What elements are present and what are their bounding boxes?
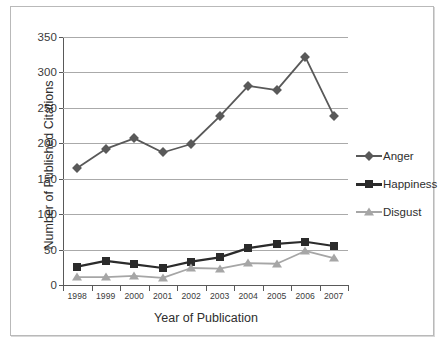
- legend-swatch-happiness: [356, 178, 382, 190]
- data-point-disgust-1999: [101, 273, 111, 281]
- x-tick-mark-10: [348, 286, 349, 291]
- data-point-happiness-2004: [244, 244, 252, 252]
- data-point-disgust-1998: [72, 273, 82, 281]
- x-axis-tick-labels: 1998199920002001200220032004200520062007: [63, 291, 349, 305]
- legend-label-happiness: Happiness: [382, 178, 437, 190]
- x-tick-label-2000: 2000: [124, 291, 144, 301]
- x-tick-label-2003: 2003: [210, 291, 230, 301]
- data-point-happiness-2007: [330, 242, 338, 250]
- data-point-happiness-2006: [301, 238, 309, 246]
- legend-swatch-anger: [356, 150, 382, 162]
- data-point-disgust-2001: [158, 274, 168, 282]
- y-axis-title: Number of Published Citations: [42, 60, 56, 270]
- x-tick-mark-4: [177, 286, 178, 291]
- data-point-happiness-1999: [102, 257, 110, 265]
- data-point-disgust-2000: [129, 271, 139, 279]
- x-tick-label-2002: 2002: [181, 291, 201, 301]
- x-tick-mark-7: [263, 286, 264, 291]
- x-axis-title: Year of Publication: [63, 311, 349, 325]
- legend-label-disgust: Disgust: [382, 206, 421, 218]
- legend-item-disgust[interactable]: Disgust: [356, 198, 436, 226]
- y-tick-label-0: 0: [51, 279, 58, 291]
- data-point-happiness-2000: [130, 260, 138, 268]
- chart-legend: AngerHappinessDisgust: [356, 142, 436, 226]
- x-tick-label-2006: 2006: [295, 291, 315, 301]
- y-axis-title-container: Number of Published Citations: [24, 10, 46, 290]
- data-point-disgust-2002: [186, 264, 196, 272]
- y-tick-mark-250: [59, 108, 63, 109]
- data-point-happiness-2003: [216, 253, 224, 261]
- x-tick-mark-1: [92, 286, 93, 291]
- series-line-anger: [77, 57, 334, 168]
- data-point-disgust-2006: [300, 247, 310, 255]
- data-point-happiness-2001: [159, 264, 167, 272]
- legend-label-anger: Anger: [382, 150, 414, 162]
- y-tick-mark-200: [59, 143, 63, 144]
- x-tick-mark-6: [234, 286, 235, 291]
- legend-item-anger[interactable]: Anger: [356, 142, 436, 170]
- legend-item-happiness[interactable]: Happiness: [356, 170, 436, 198]
- x-tick-label-2007: 2007: [324, 291, 344, 301]
- x-tick-mark-2: [120, 286, 121, 291]
- x-tick-mark-5: [206, 286, 207, 291]
- x-tick-mark-9: [320, 286, 321, 291]
- data-point-disgust-2007: [329, 254, 339, 262]
- plot-area: [63, 37, 348, 285]
- y-tick-mark-300: [59, 72, 63, 73]
- x-tick-mark-3: [149, 286, 150, 291]
- legend-swatch-disgust: [356, 206, 382, 218]
- data-point-disgust-2005: [272, 259, 282, 267]
- x-tick-mark-0: [63, 286, 64, 291]
- data-point-happiness-1998: [73, 263, 81, 271]
- data-point-disgust-2004: [243, 259, 253, 267]
- x-tick-label-2005: 2005: [267, 291, 287, 301]
- x-tick-label-2001: 2001: [153, 291, 173, 301]
- data-point-disgust-2003: [215, 264, 225, 272]
- legend-marker-triangle-icon: [364, 208, 374, 216]
- legend-marker-diamond-icon: [364, 151, 374, 161]
- x-tick-label-1998: 1998: [67, 291, 87, 301]
- series-line-disgust: [77, 251, 334, 278]
- x-tick-mark-8: [291, 286, 292, 291]
- legend-marker-square-icon: [365, 180, 373, 188]
- x-tick-label-1999: 1999: [96, 291, 116, 301]
- y-tick-mark-100: [59, 214, 63, 215]
- x-tick-label-2004: 2004: [238, 291, 258, 301]
- chart-figure: 050100150200250300350 Number of Publishe…: [0, 0, 442, 345]
- data-point-happiness-2005: [273, 240, 281, 248]
- y-tick-mark-50: [59, 250, 63, 251]
- y-tick-mark-350: [59, 37, 63, 38]
- y-tick-mark-150: [59, 179, 63, 180]
